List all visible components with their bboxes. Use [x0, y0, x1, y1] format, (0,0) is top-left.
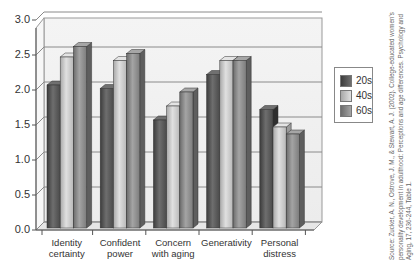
- x-category-label: Personaldistress: [252, 237, 308, 259]
- legend-item-20s: 20s: [340, 74, 372, 87]
- x-category-label: Generativity: [198, 237, 254, 248]
- y-tick-label: 1.5: [2, 118, 30, 130]
- bar: [180, 88, 198, 228]
- source-citation: Source: Zucker, A. N., Ostrove, J. M., &…: [388, 10, 414, 260]
- bar: [73, 43, 91, 229]
- legend-label: 20s: [356, 75, 372, 86]
- bar: [286, 130, 304, 228]
- legend-label: 40s: [356, 90, 372, 101]
- y-tick-label: 0.0: [2, 223, 30, 235]
- legend: 20s 40s 60s: [334, 67, 373, 123]
- x-category-label: Concernwith aging: [145, 237, 201, 259]
- y-tick-label: 2.0: [2, 83, 30, 95]
- bar: [127, 50, 145, 229]
- legend-item-60s: 60s: [340, 104, 372, 117]
- y-tick-label: 3.0: [2, 13, 30, 25]
- legend-swatch-60s: [340, 105, 352, 117]
- bar: [233, 57, 251, 229]
- legend-swatch-20s: [340, 75, 352, 87]
- y-tick-label: 0.5: [2, 188, 30, 200]
- x-category-label: Confidentpower: [92, 237, 148, 259]
- legend-item-40s: 40s: [340, 89, 372, 102]
- legend-label: 60s: [356, 105, 372, 116]
- legend-swatch-40s: [340, 90, 352, 102]
- x-category-label: Identitycertainty: [39, 237, 95, 259]
- y-tick-label: 1.0: [2, 153, 30, 165]
- y-tick-label: 2.5: [2, 48, 30, 60]
